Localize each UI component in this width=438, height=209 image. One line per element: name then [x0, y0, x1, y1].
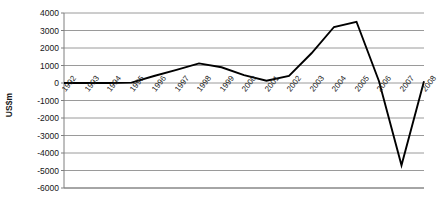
plot-area [0, 0, 436, 209]
chart-container: US$m 40003000200010000-1000-2000-3000-40… [0, 0, 436, 209]
